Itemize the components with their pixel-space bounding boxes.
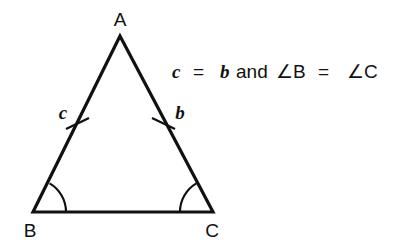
equation-equals-second: =	[318, 61, 329, 82]
equation-equals-first: =	[193, 61, 204, 82]
triangle-outline	[33, 36, 213, 212]
equation-var-b: b	[220, 61, 230, 82]
vertex-label-a: A	[114, 9, 127, 30]
equation-group: c = b and ∠B = ∠C	[172, 61, 378, 82]
equation-angle-c: ∠C	[347, 61, 378, 82]
equation-conjunction: and	[236, 61, 268, 82]
equation-var-c: c	[172, 61, 181, 82]
equation-angle-b: ∠B	[276, 61, 306, 82]
side-label-c: c	[59, 102, 68, 123]
angle-arc-b	[50, 183, 66, 212]
side-label-b: b	[175, 102, 185, 123]
figure-canvas: A B C c b c = b and ∠B = ∠C	[0, 0, 408, 248]
angle-arc-c	[180, 183, 196, 212]
vertex-label-c: C	[205, 220, 219, 241]
triangle-diagram: A B C c b c = b and ∠B = ∠C	[0, 0, 408, 248]
vertex-label-b: B	[24, 220, 37, 241]
